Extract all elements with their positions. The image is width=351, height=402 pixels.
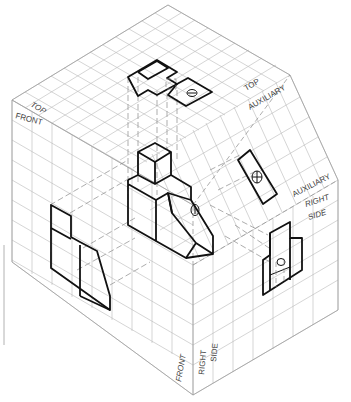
projection-diagram: TOP FRONT TOP AUXILIARY AUXILIARY RIGHT … xyxy=(0,0,351,402)
label-top-aux-1: TOP xyxy=(243,77,262,93)
auxiliary-plane-grid xyxy=(140,75,338,260)
label-bottom-front: FRONT xyxy=(174,353,188,383)
label-aux-rs-3: SIDE xyxy=(307,207,328,222)
label-bottom-side: SIDE xyxy=(209,343,220,362)
label-bottom-right: RIGHT xyxy=(197,349,208,375)
label-front-left: FRONT xyxy=(14,111,43,127)
right-side-view xyxy=(263,222,302,295)
front-view xyxy=(51,205,110,310)
isometric-object xyxy=(128,143,213,258)
box-edges xyxy=(4,5,338,395)
